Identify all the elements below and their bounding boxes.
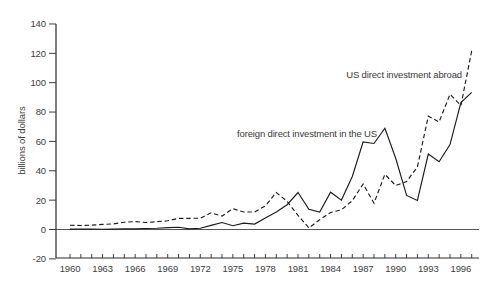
x-tick-label: 1972: [190, 263, 211, 274]
x-tick-label: 1975: [222, 263, 243, 274]
x-tick-label: 1993: [418, 263, 439, 274]
x-tick-label: 1978: [255, 263, 276, 274]
x-tick-label: 1990: [385, 263, 406, 274]
chart-figure: -200204060801001201401960196319661969197…: [0, 0, 496, 293]
y-tick-label: 60: [36, 136, 46, 147]
x-tick-label: 1984: [320, 263, 341, 274]
y-tick-label: 100: [30, 77, 46, 88]
y-tick-label: 40: [36, 165, 46, 176]
x-tick-label: 1960: [60, 263, 81, 274]
x-tick-label: 1987: [353, 263, 374, 274]
x-tick-label: 1969: [157, 263, 178, 274]
y-tick-label: 120: [30, 48, 46, 59]
y-tick-label: 140: [30, 18, 46, 29]
series-label-us-direct-investment-abroad: US direct investment abroad: [346, 69, 462, 80]
x-tick-label: 1996: [450, 263, 471, 274]
x-tick-label: 1963: [92, 263, 113, 274]
y-tick-label: 20: [36, 195, 46, 206]
y-axis-title: billions of dollars: [16, 101, 27, 181]
y-tick-label: 0: [41, 224, 46, 235]
y-tick-label: -20: [33, 253, 46, 264]
chart-canvas: -200204060801001201401960196319661969197…: [0, 0, 496, 293]
series-label-foreign-direct-investment-in-us: foreign direct investment in the US: [237, 128, 377, 139]
x-tick-label: 1981: [288, 263, 309, 274]
x-tick-label: 1966: [125, 263, 146, 274]
series-line-foreign-in-us: [70, 92, 472, 229]
y-tick-label: 80: [36, 106, 46, 117]
